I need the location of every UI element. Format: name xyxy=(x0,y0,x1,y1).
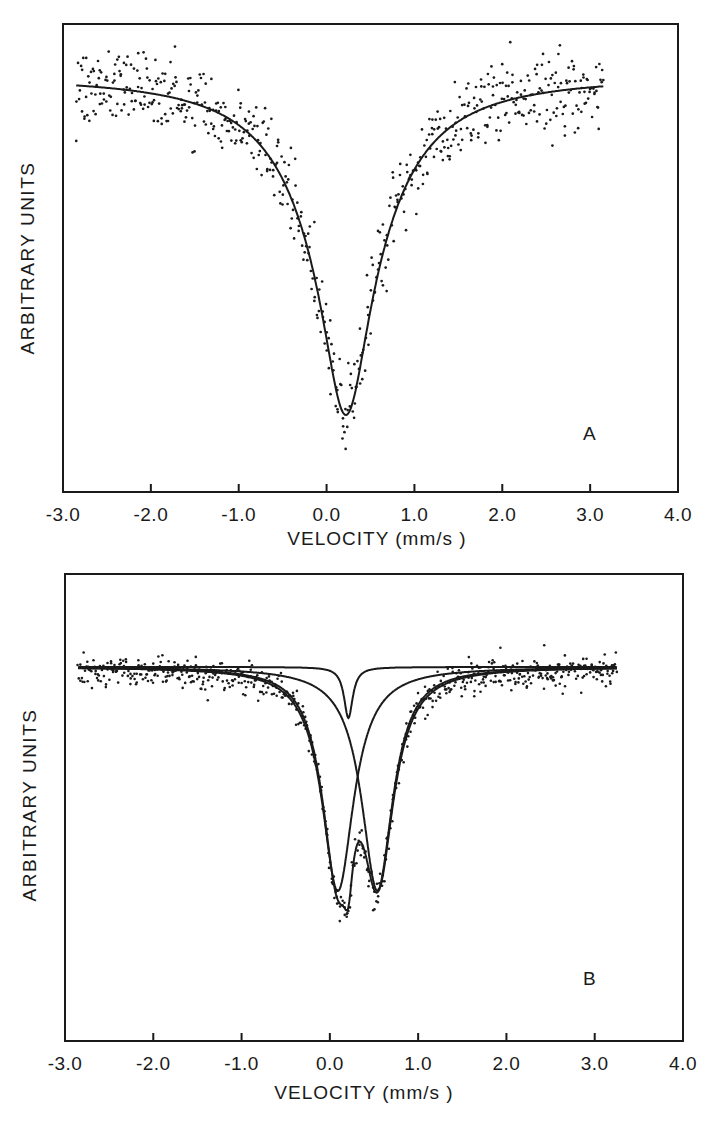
x-tick-label: 0.0 xyxy=(313,504,341,526)
x-axis-label-b: VELOCITY (mm/s ) xyxy=(274,1082,453,1104)
x-tick-label: 1.0 xyxy=(404,1053,432,1075)
data-points-a xyxy=(75,41,605,450)
data-points-b xyxy=(76,644,618,922)
x-tick-label: -2.0 xyxy=(133,504,168,526)
x-tick-label: 0.0 xyxy=(316,1053,344,1075)
panel-label-a: A xyxy=(583,423,596,445)
x-tick-label: 4.0 xyxy=(664,504,692,526)
component-curve-1 xyxy=(78,668,617,891)
x-axis-label-a: VELOCITY (mm/s ) xyxy=(287,528,466,550)
x-tick-label: 1.0 xyxy=(400,504,428,526)
y-axis-label-b: ARBITRARY UNITS xyxy=(19,709,41,902)
x-tick-label: -2.0 xyxy=(136,1053,171,1075)
x-tick-label: 3.0 xyxy=(581,1053,609,1075)
x-tick-label: 3.0 xyxy=(576,504,604,526)
fit-curve-a xyxy=(76,85,603,415)
x-tick-label: 2.0 xyxy=(492,1053,520,1075)
component-curve-3 xyxy=(78,667,617,718)
x-tick-label: -3.0 xyxy=(46,504,81,526)
x-tick-label: -3.0 xyxy=(48,1053,83,1075)
x-tick-label: 4.0 xyxy=(669,1053,697,1075)
plot-area-a xyxy=(0,0,715,560)
plot-area-b xyxy=(0,550,715,1124)
panel-label-b: B xyxy=(583,968,596,990)
spectrum-panel-b: ARBITRARY UNITS B -3.0-2.0-1.00.01.02.03… xyxy=(0,550,715,1124)
spectrum-panel-a: ARBITRARY UNITS A -3.0-2.0-1.00.01.02.03… xyxy=(0,0,715,560)
total-fit-curve xyxy=(78,668,617,911)
x-tick-label: -1.0 xyxy=(224,1053,259,1075)
component-curve-2 xyxy=(78,668,617,891)
x-tick-label: 2.0 xyxy=(488,504,516,526)
y-axis-label-a: ARBITRARY UNITS xyxy=(17,162,39,355)
x-tick-label: -1.0 xyxy=(221,504,256,526)
